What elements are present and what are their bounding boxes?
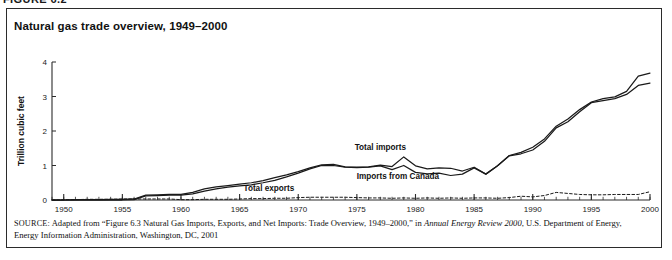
y-tick-label: 1 bbox=[43, 162, 48, 171]
x-tick-label: 1980 bbox=[407, 205, 425, 214]
x-tick-label: 2000 bbox=[641, 205, 659, 214]
x-tick-label: 1975 bbox=[348, 205, 366, 214]
series-annotation: Imports from Canada bbox=[357, 172, 440, 181]
source-label: SOURCE: bbox=[14, 219, 50, 228]
series-line-total-imports bbox=[52, 73, 650, 200]
x-tick-label: 1985 bbox=[465, 205, 483, 214]
y-tick-label: 0 bbox=[43, 196, 48, 205]
series-annotation: Total exports bbox=[244, 184, 295, 193]
x-tick-label: 1990 bbox=[524, 205, 542, 214]
source-note: SOURCE: Adapted from “Figure 6.3 Natural… bbox=[14, 218, 648, 241]
y-tick-label: 4 bbox=[43, 58, 48, 67]
source-text-before: Adapted from “Figure 6.3 Natural Gas Imp… bbox=[50, 218, 424, 228]
source-italic-title: Annual Energy Review 2000 bbox=[424, 218, 522, 228]
x-tick-label: 1955 bbox=[113, 205, 131, 214]
y-tick-label: 3 bbox=[43, 93, 48, 102]
x-tick-label: 1970 bbox=[289, 205, 307, 214]
x-tick-label: 1960 bbox=[172, 205, 190, 214]
y-axis-label: Trillion cubic feet bbox=[16, 96, 26, 166]
figure-container: FIGURE 6.2 Natural gas trade overview, 1… bbox=[0, 0, 672, 260]
series-annotation: Total imports bbox=[355, 143, 407, 152]
x-tick-label: 1995 bbox=[582, 205, 600, 214]
x-tick-label: 1950 bbox=[55, 205, 73, 214]
x-tick-label: 1965 bbox=[231, 205, 249, 214]
series-line-imports-from-canada bbox=[52, 83, 650, 200]
y-tick-label: 2 bbox=[43, 127, 48, 136]
